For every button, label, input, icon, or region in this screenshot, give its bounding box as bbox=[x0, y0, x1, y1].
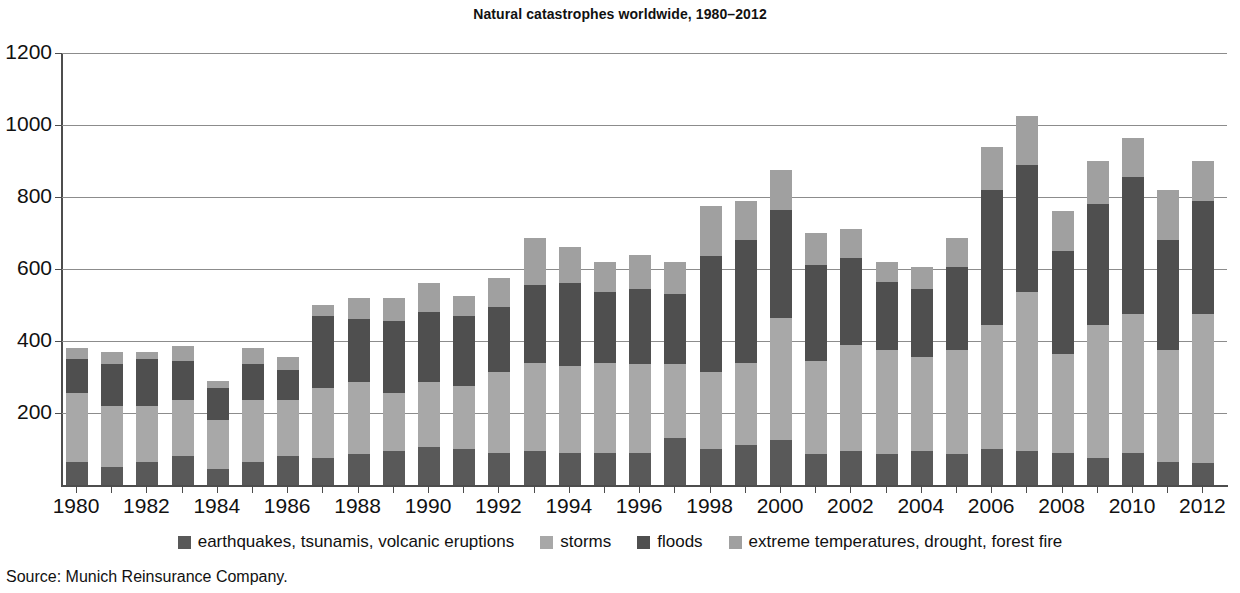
bar-segment-0 bbox=[1016, 451, 1038, 485]
bar-segment-2 bbox=[981, 190, 1003, 325]
bar-segment-1 bbox=[488, 372, 510, 453]
bar-segment-0 bbox=[700, 449, 722, 485]
bar-segment-2 bbox=[136, 359, 158, 406]
x-axis-tick bbox=[674, 487, 675, 493]
bar-segment-3 bbox=[840, 229, 862, 258]
x-axis-tick bbox=[886, 487, 887, 493]
bar-segment-3 bbox=[770, 170, 792, 210]
bar-segment-0 bbox=[101, 467, 123, 485]
plot-area bbox=[62, 53, 1227, 485]
bar-segment-2 bbox=[66, 359, 88, 393]
bar-segment-2 bbox=[348, 319, 370, 382]
bar-segment-0 bbox=[172, 456, 194, 485]
bar-1982 bbox=[136, 352, 158, 485]
bar-segment-0 bbox=[805, 454, 827, 485]
y-axis-tick bbox=[55, 413, 62, 414]
x-axis-tick bbox=[1167, 487, 1168, 493]
bar-segment-1 bbox=[594, 363, 616, 453]
bar-segment-1 bbox=[312, 388, 334, 458]
x-axis-tick bbox=[921, 487, 922, 493]
x-axis-tick bbox=[1132, 487, 1133, 493]
bar-segment-3 bbox=[981, 147, 1003, 190]
bar-2005 bbox=[946, 238, 968, 485]
bar-segment-1 bbox=[1052, 354, 1074, 453]
x-axis-tick bbox=[1202, 487, 1203, 493]
x-axis-tick bbox=[745, 487, 746, 493]
bar-segment-3 bbox=[876, 262, 898, 282]
legend-item-1[interactable]: storms bbox=[540, 532, 611, 552]
chart-figure: Natural catastrophes worldwide, 1980–201… bbox=[0, 0, 1240, 593]
x-axis-tick bbox=[604, 487, 605, 493]
bar-segment-2 bbox=[1016, 165, 1038, 293]
bar-segment-3 bbox=[136, 352, 158, 359]
bar-segment-0 bbox=[453, 449, 475, 485]
x-axis-tick bbox=[217, 487, 218, 493]
bar-2012 bbox=[1192, 161, 1214, 485]
bar-segment-2 bbox=[876, 282, 898, 350]
bar-2001 bbox=[805, 233, 827, 485]
y-axis-tick-label: 600 bbox=[0, 257, 52, 278]
chart-title: Natural catastrophes worldwide, 1980–201… bbox=[0, 6, 1240, 22]
bar-segment-1 bbox=[1157, 350, 1179, 462]
bar-2006 bbox=[981, 147, 1003, 485]
bar-segment-0 bbox=[524, 451, 546, 485]
bar-segment-1 bbox=[172, 400, 194, 456]
x-axis-tick-label: 2000 bbox=[745, 494, 815, 517]
x-axis-tick bbox=[534, 487, 535, 493]
bar-segment-2 bbox=[488, 307, 510, 372]
bar-segment-1 bbox=[66, 393, 88, 461]
bar-segment-3 bbox=[664, 262, 686, 294]
bar-segment-0 bbox=[981, 449, 1003, 485]
y-axis-tick bbox=[55, 269, 62, 270]
legend-item-2[interactable]: floods bbox=[637, 532, 702, 552]
legend-item-3[interactable]: extreme temperatures, drought, forest fi… bbox=[729, 532, 1063, 552]
bar-segment-0 bbox=[840, 451, 862, 485]
y-axis-tick bbox=[55, 125, 62, 126]
x-axis-tick bbox=[991, 487, 992, 493]
legend-item-0[interactable]: earthquakes, tsunamis, volcanic eruption… bbox=[178, 532, 515, 552]
bar-segment-2 bbox=[312, 316, 334, 388]
x-axis-tick-label: 1980 bbox=[41, 494, 111, 517]
bar-segment-2 bbox=[1052, 251, 1074, 354]
bar-segment-0 bbox=[277, 456, 299, 485]
bar-segment-3 bbox=[277, 357, 299, 370]
bar-segment-0 bbox=[1157, 462, 1179, 485]
bar-1997 bbox=[664, 262, 686, 485]
x-axis-tick-label: 1998 bbox=[675, 494, 745, 517]
x-axis-tick bbox=[76, 487, 77, 493]
bar-segment-0 bbox=[418, 447, 440, 485]
bar-1983 bbox=[172, 346, 194, 485]
bar-segment-0 bbox=[136, 462, 158, 485]
bar-segment-3 bbox=[1157, 190, 1179, 240]
bar-segment-2 bbox=[911, 289, 933, 357]
y-axis-tick bbox=[55, 341, 62, 342]
x-axis-tick bbox=[569, 487, 570, 493]
legend-swatch-icon bbox=[178, 536, 191, 549]
bar-1989 bbox=[383, 298, 405, 485]
bar-segment-2 bbox=[1157, 240, 1179, 350]
bar-segment-1 bbox=[805, 361, 827, 455]
bar-1981 bbox=[101, 352, 123, 485]
bar-segment-0 bbox=[770, 440, 792, 485]
bar-segment-2 bbox=[629, 289, 651, 365]
bar-segment-3 bbox=[1122, 138, 1144, 178]
bar-segment-0 bbox=[664, 438, 686, 485]
x-axis-tick bbox=[1097, 487, 1098, 493]
x-axis-tick-labels: 1980198219841986198819901992199419961998… bbox=[0, 494, 1240, 524]
bar-segment-3 bbox=[805, 233, 827, 265]
bar-segment-0 bbox=[1052, 453, 1074, 485]
bar-segment-1 bbox=[840, 345, 862, 451]
bar-segment-2 bbox=[840, 258, 862, 344]
bar-segment-1 bbox=[277, 400, 299, 456]
bar-segment-3 bbox=[453, 296, 475, 316]
bar-segment-3 bbox=[1052, 211, 1074, 251]
chart-legend: earthquakes, tsunamis, volcanic eruption… bbox=[0, 532, 1240, 552]
bar-segment-2 bbox=[1122, 177, 1144, 314]
bar-segment-1 bbox=[1087, 325, 1109, 458]
legend-swatch-icon bbox=[637, 536, 650, 549]
x-axis-tick bbox=[182, 487, 183, 493]
x-axis-tick-label: 1984 bbox=[182, 494, 252, 517]
bar-segment-1 bbox=[136, 406, 158, 462]
bar-segment-2 bbox=[453, 316, 475, 386]
bar-segment-0 bbox=[735, 445, 757, 485]
